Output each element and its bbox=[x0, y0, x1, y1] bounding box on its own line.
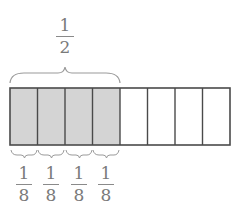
top-fraction-label: 1 2 bbox=[55, 17, 75, 56]
denominator: 8 bbox=[96, 187, 116, 204]
top-numerator: 1 bbox=[55, 17, 75, 34]
bottom-braces bbox=[11, 150, 119, 158]
bottom-fraction-label-4: 1 8 bbox=[96, 165, 116, 204]
denominator: 8 bbox=[69, 187, 89, 204]
denominator: 8 bbox=[41, 187, 61, 204]
numerator: 1 bbox=[96, 165, 116, 182]
numerator: 1 bbox=[41, 165, 61, 182]
numerator: 1 bbox=[14, 165, 34, 182]
top-denominator: 2 bbox=[55, 39, 75, 56]
numerator: 1 bbox=[69, 165, 89, 182]
fraction-bar-diagram bbox=[0, 0, 250, 212]
bottom-fraction-label-3: 1 8 bbox=[69, 165, 89, 204]
top-brace bbox=[10, 67, 120, 83]
bottom-fraction-label-1: 1 8 bbox=[14, 165, 34, 204]
bottom-fraction-label-2: 1 8 bbox=[41, 165, 61, 204]
denominator: 8 bbox=[14, 187, 34, 204]
